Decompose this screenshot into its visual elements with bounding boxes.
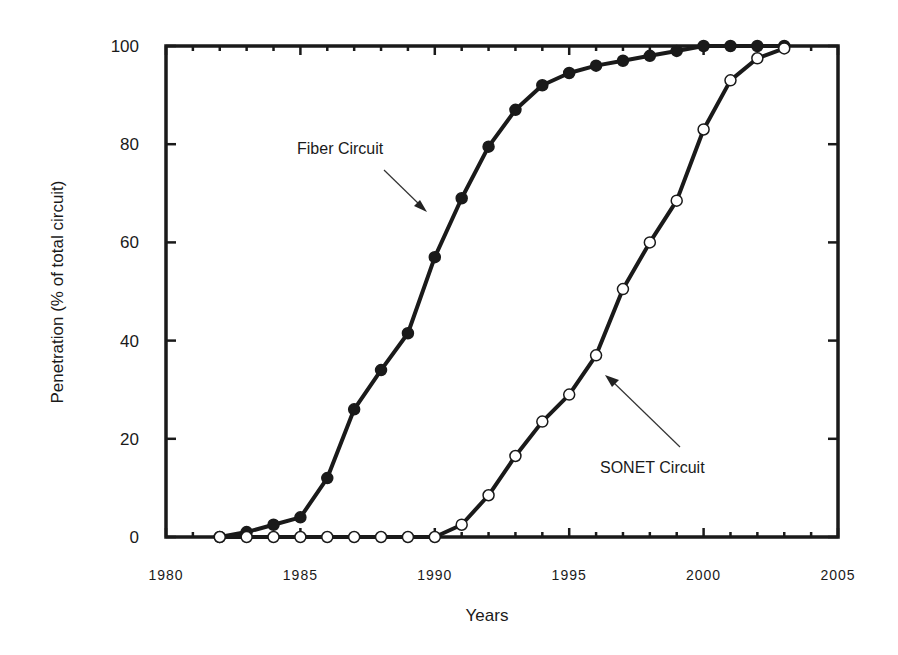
data-point-marker bbox=[349, 404, 360, 415]
data-point-marker bbox=[564, 68, 575, 79]
data-point-marker bbox=[241, 532, 252, 543]
data-point-marker bbox=[349, 532, 360, 543]
data-point-marker bbox=[564, 389, 575, 400]
data-point-marker bbox=[295, 532, 306, 543]
plot-frame bbox=[166, 46, 838, 537]
data-point-marker bbox=[644, 237, 655, 248]
data-point-marker bbox=[510, 450, 521, 461]
data-point-marker bbox=[671, 45, 682, 56]
y-tick-label: 60 bbox=[120, 233, 139, 252]
sonet-annotation-arrow-icon bbox=[605, 375, 680, 447]
x-tick-label: 2000 bbox=[686, 567, 721, 583]
data-point-marker bbox=[376, 532, 387, 543]
y-tick-label: 40 bbox=[120, 332, 139, 351]
data-point-marker bbox=[644, 50, 655, 61]
data-point-marker bbox=[483, 490, 494, 501]
y-axis-title: Penetration (% of total circuit) bbox=[48, 181, 67, 404]
data-point-marker bbox=[268, 532, 279, 543]
x-axis-tick-labels: 198019851990199520002005 bbox=[148, 567, 855, 583]
line-chart: 020406080100 198019851990199520002005 Ye… bbox=[0, 0, 898, 655]
data-point-marker bbox=[268, 519, 279, 530]
y-tick-label: 80 bbox=[120, 135, 139, 154]
fiber-circuit-annotation: Fiber Circuit bbox=[297, 140, 384, 157]
data-point-marker bbox=[510, 104, 521, 115]
axis-ticks bbox=[166, 46, 838, 537]
data-point-marker bbox=[402, 532, 413, 543]
y-tick-label: 100 bbox=[111, 37, 139, 56]
data-point-marker bbox=[429, 252, 440, 263]
x-axis-title: Years bbox=[466, 606, 509, 625]
data-point-marker bbox=[591, 350, 602, 361]
data-point-marker bbox=[376, 365, 387, 376]
data-point-marker bbox=[779, 43, 790, 54]
y-axis-tick-labels: 020406080100 bbox=[111, 37, 139, 547]
data-point-marker bbox=[537, 416, 548, 427]
data-point-marker bbox=[456, 519, 467, 530]
data-point-marker bbox=[671, 195, 682, 206]
data-point-marker bbox=[295, 512, 306, 523]
y-tick-label: 20 bbox=[120, 430, 139, 449]
data-point-marker bbox=[322, 532, 333, 543]
data-point-marker bbox=[456, 193, 467, 204]
data-point-marker bbox=[752, 53, 763, 64]
data-point-marker bbox=[698, 41, 709, 52]
data-point-marker bbox=[725, 41, 736, 52]
sonet-circuit-annotation: SONET Circuit bbox=[600, 459, 705, 476]
data-point-marker bbox=[214, 532, 225, 543]
fiber-annotation-arrow-icon bbox=[384, 170, 427, 212]
data-point-marker bbox=[617, 284, 628, 295]
x-tick-label: 1980 bbox=[148, 567, 183, 583]
data-point-marker bbox=[725, 75, 736, 86]
data-point-marker bbox=[537, 80, 548, 91]
x-tick-label: 2005 bbox=[820, 567, 855, 583]
y-tick-label: 0 bbox=[130, 528, 139, 547]
data-point-marker bbox=[483, 141, 494, 152]
data-point-marker bbox=[698, 124, 709, 135]
x-tick-label: 1995 bbox=[552, 567, 587, 583]
data-point-marker bbox=[402, 328, 413, 339]
data-point-marker bbox=[322, 473, 333, 484]
data-point-marker bbox=[617, 55, 628, 66]
data-point-marker bbox=[752, 41, 763, 52]
data-point-marker bbox=[591, 60, 602, 71]
x-tick-label: 1985 bbox=[283, 567, 318, 583]
data-point-marker bbox=[429, 532, 440, 543]
x-tick-label: 1990 bbox=[417, 567, 452, 583]
